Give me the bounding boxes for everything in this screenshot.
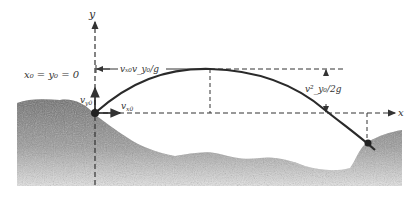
max-height-label: v²_y₀/2g [305, 84, 342, 95]
trajectory [95, 69, 375, 150]
x-axis-label: x [398, 107, 404, 118]
y-axis-label: y [88, 8, 96, 21]
vx0-label: vx0 [121, 101, 133, 112]
projectile-diagram: y x x₀ = y₀ = 0 vy0 vx0 vₓ₀v_y₀/g v²_y₀/… [0, 0, 417, 199]
diagram-canvas: y x x₀ = y₀ = 0 vy0 vx0 vₓ₀v_y₀/g v²_y₀/… [0, 0, 417, 199]
origin-label: x₀ = y₀ = 0 [24, 69, 80, 80]
launch-point [91, 109, 99, 117]
landing-point [365, 140, 372, 147]
range-to-peak-label: vₓ₀v_y₀/g [120, 64, 159, 75]
